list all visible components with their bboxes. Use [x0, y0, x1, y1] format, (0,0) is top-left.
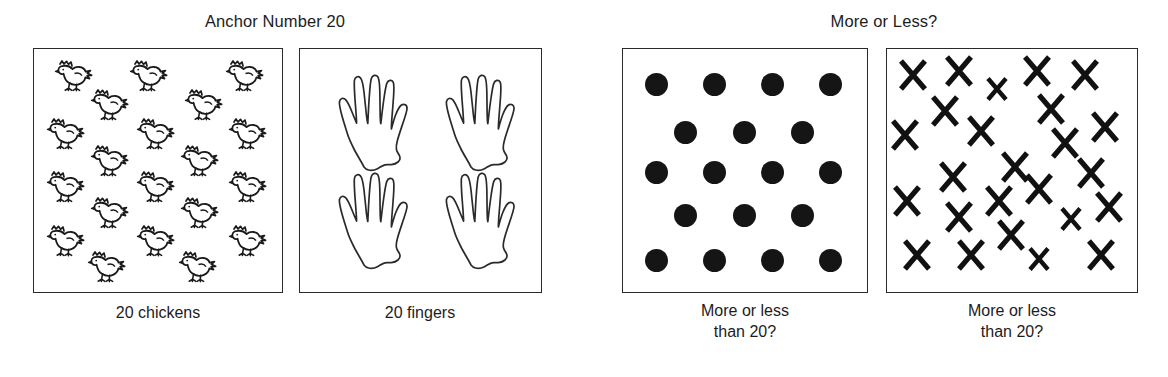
chickens-box	[33, 48, 283, 293]
chicken-icon	[227, 61, 263, 91]
x-mark-icon	[905, 241, 929, 269]
filled-circle-icon	[819, 249, 842, 272]
filled-circle-icon	[819, 73, 842, 96]
filled-circle-icon	[703, 161, 726, 184]
filled-circle-icon	[733, 204, 756, 227]
chicken-icon	[56, 61, 92, 91]
filled-circle-icon	[733, 121, 756, 144]
filled-circle-icon	[703, 249, 726, 272]
filled-circle-icon	[819, 161, 842, 184]
x-mark-icon	[901, 61, 925, 89]
hand-icon	[446, 173, 514, 268]
chicken-icon	[182, 146, 218, 176]
chicken-icon	[182, 198, 218, 228]
chicken-icon	[138, 119, 174, 149]
filled-circle-icon	[645, 249, 668, 272]
filled-circle-icon	[703, 73, 726, 96]
chicken-icon	[92, 146, 128, 176]
x-mark-icon	[1025, 57, 1049, 85]
x-mark-icon	[1079, 159, 1103, 187]
x-mark-icon	[988, 79, 1006, 100]
chicken-icon	[180, 252, 216, 282]
dots-box	[622, 48, 868, 293]
filled-circle-icon	[791, 204, 814, 227]
x-mark-icon	[893, 121, 917, 149]
x-mark-icon	[947, 57, 971, 85]
x-mark-icon	[933, 97, 957, 125]
filled-circle-icon	[674, 204, 697, 227]
chicken-icon	[92, 198, 128, 228]
x-mark-icon	[1093, 113, 1117, 141]
x-mark-icon	[1089, 241, 1113, 269]
x-mark-icon	[959, 241, 983, 269]
worksheet-page: Anchor Number 20	[0, 0, 1168, 377]
chicken-icon	[230, 172, 266, 202]
x-mark-icon	[895, 187, 919, 215]
chicken-icon	[138, 226, 174, 256]
caption-dots: More or less than 20?	[701, 300, 789, 342]
x-mark-icon	[941, 163, 965, 191]
x-mark-icon	[1062, 209, 1080, 230]
x-mark-icon	[969, 117, 993, 145]
xmark-group	[887, 49, 1138, 293]
chicken-icon	[89, 252, 125, 282]
x-mark-icon	[1097, 193, 1121, 221]
caption-fingers: 20 fingers	[385, 302, 455, 323]
hand-icon	[446, 75, 514, 170]
hand-icon	[339, 75, 407, 170]
filled-circle-icon	[645, 161, 668, 184]
hand-icon	[339, 173, 407, 268]
x-mark-icon	[999, 221, 1023, 249]
chicken-icon	[131, 61, 167, 91]
chicken-icon	[186, 90, 222, 120]
x-mark-icon	[947, 203, 971, 231]
x-mark-icon	[1030, 249, 1048, 270]
x-mark-icon	[1073, 61, 1097, 89]
chicken-icon	[230, 226, 266, 256]
x-mark-icon	[1039, 95, 1063, 123]
chicken-icon	[48, 172, 84, 202]
panel-title-anchor-number: Anchor Number 20	[205, 12, 345, 31]
xmarks-box	[886, 48, 1138, 293]
chicken-icon	[230, 119, 266, 149]
fingers-box	[299, 48, 542, 293]
x-mark-icon	[1027, 175, 1051, 203]
caption-chickens: 20 chickens	[116, 302, 201, 323]
x-mark-icon	[1053, 129, 1077, 157]
filled-circle-icon	[761, 249, 784, 272]
filled-circle-icon	[761, 73, 784, 96]
filled-circle-icon	[791, 121, 814, 144]
filled-circle-icon	[674, 121, 697, 144]
chicken-group	[34, 49, 283, 293]
chicken-icon	[92, 90, 128, 120]
x-mark-icon	[987, 187, 1011, 215]
filled-circle-icon	[761, 161, 784, 184]
panel-title-more-or-less: More or Less?	[831, 12, 938, 31]
caption-xmarks: More or less than 20?	[968, 300, 1056, 342]
x-mark-icon	[1003, 153, 1027, 181]
chicken-icon	[48, 119, 84, 149]
filled-circle-icon	[645, 73, 668, 96]
chicken-icon	[138, 172, 174, 202]
hand-group	[300, 49, 542, 293]
chicken-icon	[48, 226, 84, 256]
